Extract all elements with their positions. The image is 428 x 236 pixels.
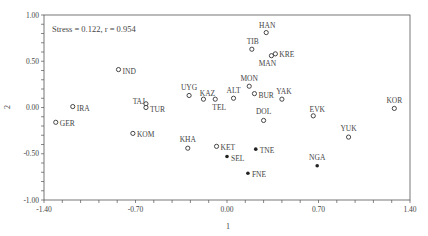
filled-circle-marker: [315, 164, 319, 168]
open-circle-marker: [264, 30, 268, 34]
point-label: KOM: [137, 130, 155, 139]
open-circle-marker: [311, 114, 315, 118]
point-label: MAN: [259, 59, 277, 68]
open-circle-marker: [71, 104, 75, 108]
point-label: TUR: [150, 105, 165, 114]
open-circle-marker: [280, 97, 284, 101]
point-label: GER: [60, 119, 75, 128]
point-label: KHA: [180, 135, 197, 144]
x-tick-label: 1.40: [403, 205, 416, 214]
point-label: UYG: [181, 83, 198, 92]
point-label: YUK: [340, 124, 357, 133]
open-circle-marker: [186, 146, 190, 150]
filled-circle-marker: [254, 147, 258, 151]
point-label: TEL: [212, 103, 226, 112]
stress-annotation: Stress = 0.122, r = 0.954: [52, 24, 136, 34]
point-label: SEL: [231, 154, 245, 163]
y-tick-label: -0.50: [23, 149, 39, 158]
open-circle-marker: [214, 144, 218, 148]
open-circle-marker: [231, 96, 235, 100]
filled-circle-marker: [246, 171, 250, 175]
point-label: KET: [221, 143, 236, 152]
point-label: EVK: [310, 105, 326, 114]
open-circle-marker: [273, 52, 277, 56]
point-label: KRE: [279, 50, 294, 59]
point-label: NGA: [309, 153, 326, 162]
point-label: MON: [240, 74, 258, 83]
open-circle-marker: [250, 47, 254, 51]
y-tick-label: 1.00: [26, 11, 39, 20]
open-circle-marker: [252, 92, 256, 96]
x-tick-label: 0.70: [312, 205, 325, 214]
point-label: TAJ: [133, 97, 145, 106]
open-circle-marker: [187, 93, 191, 97]
point-label: HAN: [259, 21, 276, 30]
point-label: FNE: [252, 170, 267, 179]
x-tick-label: -1.40: [36, 205, 52, 214]
x-axis-label: 1: [226, 222, 230, 231]
point-label: BUR: [258, 91, 273, 100]
x-tick-label: 0.00: [220, 205, 233, 214]
plot-frame: [44, 15, 410, 200]
filled-circle-marker: [225, 155, 229, 159]
point-label: TNE: [260, 146, 275, 155]
y-tick-label: 0.50: [26, 57, 39, 66]
open-circle-marker: [54, 120, 58, 124]
open-circle-marker: [131, 131, 135, 135]
point-label: IND: [123, 67, 137, 76]
point-label: YAK: [276, 87, 292, 96]
point-label: KAZ: [200, 89, 216, 98]
open-circle-marker: [116, 67, 120, 71]
open-circle-marker: [213, 97, 217, 101]
point-label: DOL: [256, 107, 272, 116]
point-label: ALT: [227, 86, 241, 95]
point-label: IRA: [77, 104, 91, 113]
open-circle-marker: [392, 106, 396, 110]
x-tick-label: -0.70: [128, 205, 144, 214]
y-tick-label: -1.00: [23, 196, 39, 205]
data-points: IRAGERINDTAJTURKOMUYGKAZTELALTKHAKETMONB…: [54, 21, 403, 180]
open-circle-marker: [262, 118, 266, 122]
point-label: TIB: [247, 37, 259, 46]
open-circle-marker: [144, 105, 148, 109]
open-circle-marker: [346, 135, 350, 139]
y-tick-label: 0.00: [26, 103, 39, 112]
point-label: KOR: [386, 96, 402, 105]
y-axis-label: 2: [3, 105, 12, 109]
open-circle-marker: [247, 84, 251, 88]
